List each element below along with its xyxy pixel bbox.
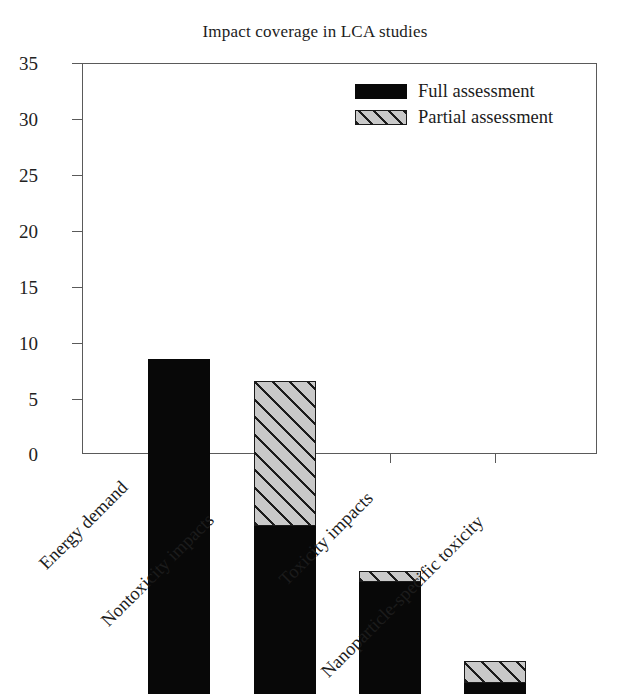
legend-label: Full assessment xyxy=(418,82,535,101)
chart-figure: Impact coverage in LCA studies 35 30 25 … xyxy=(0,0,630,694)
legend-item-full-assessment[interactable]: Full assessment xyxy=(355,78,570,104)
x-tick-label-nontoxicity-impacts: Nontoxicity impacts xyxy=(98,511,218,631)
legend-label: Partial assessment xyxy=(418,108,553,127)
legend-item-partial-assessment[interactable]: Partial assessment xyxy=(355,104,570,130)
x-tick-label-energy-demand: Energy demand xyxy=(36,478,131,573)
legend: Full assessment Partial assessment xyxy=(355,78,570,130)
legend-swatch-solid-icon xyxy=(355,84,407,99)
legend-swatch-hatched-icon xyxy=(355,110,407,125)
x-tick-label-nanoparticle-specific-toxicity: Nanoparticle-specific toxicity xyxy=(318,512,487,681)
x-tick-label-toxicity-impacts: Toxicity impacts xyxy=(276,489,376,589)
